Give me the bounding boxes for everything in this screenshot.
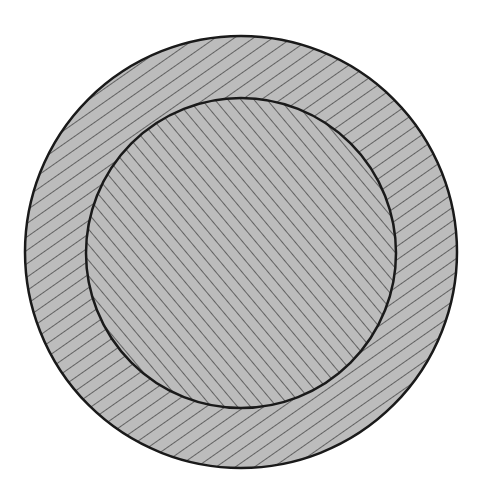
- figure-canvas: [0, 0, 481, 495]
- concentric-hatched-circles-figure: [0, 0, 481, 495]
- inner-disk-hatching: [86, 98, 396, 408]
- inner-disk: [86, 98, 396, 408]
